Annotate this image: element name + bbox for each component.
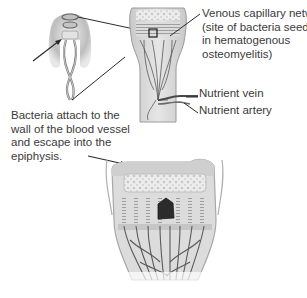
knee-joint-region <box>62 31 78 39</box>
label-line: Venous capillary network <box>202 7 307 21</box>
label-line: osteomyelitis) <box>202 48 307 62</box>
bone-end-second-icon <box>63 22 77 28</box>
connector-line-lower <box>72 57 125 100</box>
label-nutrient-vein: Nutrient vein <box>199 87 264 101</box>
bone-end-section-panel <box>130 8 198 122</box>
limb-overview-panel <box>33 14 91 101</box>
epiphysis-spongy-bone <box>136 10 180 20</box>
metaphysis-band <box>118 224 212 230</box>
epiphysis-spongy-region <box>124 174 206 192</box>
label-line: (site of bacteria seeding <box>202 21 307 35</box>
label-line: epiphysis. <box>11 150 130 164</box>
leader-nutrient-artery <box>184 103 198 113</box>
label-bacteria-note: Bacteria attach to the wall of the blood… <box>11 109 130 163</box>
epiphysis-magnified-panel <box>106 159 223 284</box>
label-nutrient-artery: Nutrient artery <box>199 104 272 118</box>
label-line: and escape into the <box>11 136 130 150</box>
bone-end-top-icon <box>62 14 78 20</box>
label-venous-capillary-network: Venous capillary network (site of bacter… <box>202 7 307 61</box>
label-line: in hematogenous <box>202 34 307 48</box>
label-line: wall of the blood vessel <box>11 123 130 137</box>
label-line: Bacteria attach to the <box>11 109 130 123</box>
diagram-canvas: Venous capillary network (site of bacter… <box>0 0 307 298</box>
